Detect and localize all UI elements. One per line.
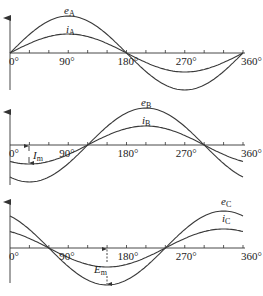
emf-label-c: eC (221, 195, 231, 209)
emf-label-a: eA (64, 4, 75, 18)
x-tick-label: 0° (9, 147, 19, 159)
x-tick-label: 270° (176, 250, 197, 262)
x-tick-label: 90° (59, 55, 74, 67)
im-label: Im (32, 149, 44, 163)
x-tick-label: 180° (118, 55, 139, 67)
three-phase-waveform-diagram: eA iA 0°90°180°270°360° eB iB Im 0°90°18… (0, 0, 263, 296)
x-tick-label: 360° (241, 250, 262, 262)
panel-a: eA iA 0°90°180°270°360° (9, 4, 262, 90)
x-tick-label: 360° (241, 55, 262, 67)
current-label-b: iB (142, 114, 150, 128)
x-tick-label: 0° (9, 55, 19, 67)
panel-c: eC iC Em 0°90°180°270°360° (9, 195, 262, 285)
x-tick-labels: 0°90°180°270°360° (9, 250, 262, 262)
current-label-c: iC (222, 212, 230, 226)
current-label-a: iA (66, 23, 75, 37)
em-label: Em (93, 263, 108, 277)
x-tick-label: 360° (241, 147, 262, 159)
x-tick-labels: 0°90°180°270°360° (9, 147, 262, 159)
emf-label-b: eB (141, 96, 151, 110)
x-tick-label: 180° (118, 250, 139, 262)
x-tick-label: 270° (176, 55, 197, 67)
x-tick-label: 90° (59, 250, 74, 262)
x-tick-label: 0° (9, 250, 19, 262)
x-tick-label: 270° (176, 147, 197, 159)
panel-b: eB iB Im 0°90°180°270°360° (9, 96, 262, 185)
x-tick-labels: 0°90°180°270°360° (9, 55, 262, 67)
x-tick-label: 90° (59, 147, 74, 159)
x-tick-label: 180° (118, 147, 139, 159)
